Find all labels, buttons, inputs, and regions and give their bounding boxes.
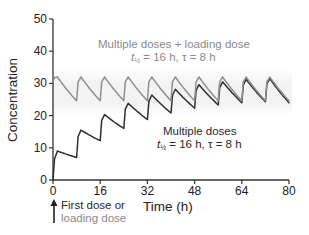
x-tick-label: 64: [235, 184, 249, 198]
params-text: = 16 h, τ = 8 h: [166, 138, 242, 150]
y-tick-label: 10: [34, 141, 48, 155]
first-dose-arrow-icon: [51, 199, 58, 223]
y-tick-label: 50: [34, 12, 48, 26]
y-axis-title: Concentration: [5, 58, 20, 142]
params-text: = 16 h, τ = 8 h: [140, 51, 216, 63]
y-tick-label: 40: [34, 44, 48, 58]
loading-dose-note: loading dose: [61, 212, 126, 224]
x-tick-label: 48: [188, 184, 202, 198]
first-dose-label: First dose or: [61, 199, 125, 211]
y-tick-label: 30: [34, 76, 48, 90]
pharmacokinetics-chart: 0102030405001632486480 Concentration Tim…: [0, 0, 309, 235]
y-tick-label: 0: [40, 173, 47, 187]
x-tick-label: 80: [282, 184, 296, 198]
multiple-doses-params: t½ = 16 h, τ = 8 h: [157, 138, 242, 151]
loading-dose-label: Multiple doses + loading dose: [98, 38, 250, 50]
x-axis-title: Time (h): [143, 199, 193, 214]
x-tick-label: 16: [94, 184, 108, 198]
y-tick-label: 20: [34, 109, 48, 123]
x-tick-label: 0: [50, 184, 57, 198]
multiple-doses-label: Multiple doses: [163, 125, 237, 137]
x-tick-label: 32: [141, 184, 155, 198]
loading-dose-params: t½ = 16 h, τ = 8 h: [131, 51, 216, 64]
